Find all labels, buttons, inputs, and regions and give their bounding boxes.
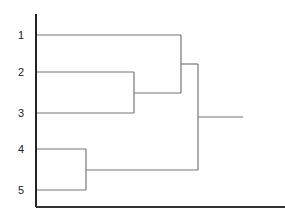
leaf-label-1: 1 xyxy=(18,29,24,41)
leaf-label-3: 3 xyxy=(18,107,24,119)
leaf-label-5: 5 xyxy=(18,184,24,196)
leaf-label-2: 2 xyxy=(18,66,24,78)
dendrogram: 1 2 3 4 5 xyxy=(0,0,285,223)
leaf-label-4: 4 xyxy=(18,143,24,155)
